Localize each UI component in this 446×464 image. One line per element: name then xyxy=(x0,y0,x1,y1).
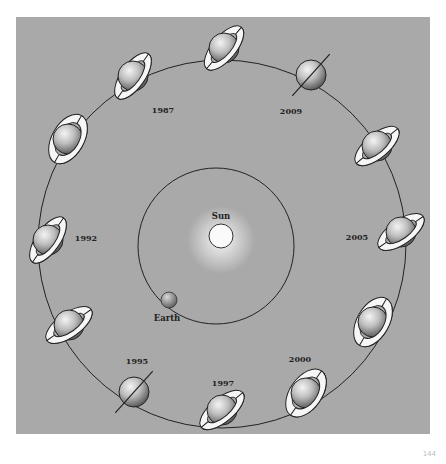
sun-label: Sun xyxy=(212,211,231,221)
year-label: 1987 xyxy=(152,105,174,115)
year-label: 2005 xyxy=(346,232,368,242)
earth-label: Earth xyxy=(154,313,181,323)
year-label: 1995 xyxy=(126,356,148,366)
year-label: 1992 xyxy=(75,233,97,243)
year-label: 2000 xyxy=(289,354,312,364)
year-label: 1997 xyxy=(212,378,234,388)
earth-icon xyxy=(161,292,177,308)
saturn-orbit-diagram: 1987200919922005199519972000SunEarth xyxy=(0,0,446,464)
year-label: 2009 xyxy=(280,106,303,116)
page-number: 144 xyxy=(423,450,436,458)
sun-icon xyxy=(209,224,233,248)
